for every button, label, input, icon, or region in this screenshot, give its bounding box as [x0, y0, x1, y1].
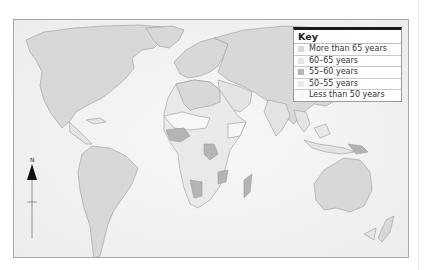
north-label: N [30, 156, 35, 163]
key-swatch [298, 58, 304, 64]
key-row-50-55: 50–55 years [294, 79, 401, 91]
page-edge-rule [418, 0, 419, 270]
key-swatch [298, 69, 304, 75]
key-label: 50–55 years [309, 79, 358, 89]
key-label: Less than 50 years [309, 90, 385, 100]
key-swatch [298, 46, 304, 52]
key-row-less-than-50: Less than 50 years [294, 90, 401, 101]
key-label: 55–60 years [309, 67, 358, 77]
compass: N [24, 156, 44, 241]
key-row-60-65: 60–65 years [294, 56, 401, 68]
key-title: Key [294, 30, 401, 44]
key-row-55-60: 55–60 years [294, 67, 401, 79]
map-key: Key More than 65 years 60–65 years 55–60… [293, 27, 402, 102]
key-label: 60–65 years [309, 56, 358, 66]
key-label: More than 65 years [309, 44, 387, 54]
key-swatch [298, 92, 304, 98]
key-row-more-than-65: More than 65 years [294, 44, 401, 56]
north-arrow-icon [24, 156, 44, 241]
key-swatch [298, 81, 304, 87]
